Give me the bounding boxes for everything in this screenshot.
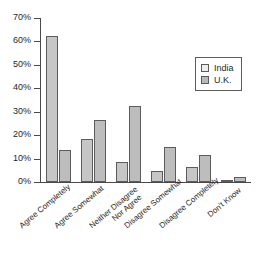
grouped-bar-chart: 0%10%20%30%40%50%60%70% Agree Completely… <box>0 0 264 257</box>
bar-uk-5 <box>234 177 246 182</box>
y-axis-tick-label: 50% <box>13 59 31 70</box>
y-axis-tick-label: 10% <box>13 153 31 164</box>
bar-india-1 <box>81 139 93 182</box>
legend-item-label: India <box>214 63 234 73</box>
chart-legend: IndiaU.K. <box>195 57 242 91</box>
bar-india-5 <box>221 180 233 182</box>
legend-swatch-uk <box>201 76 209 84</box>
bar-uk-1 <box>94 120 106 182</box>
y-axis-tick-label: 70% <box>13 12 31 23</box>
bar-uk-4 <box>199 155 211 182</box>
y-axis-tick-label: 30% <box>13 106 31 117</box>
y-axis-tick-label: 40% <box>13 82 31 93</box>
plot-area <box>40 18 250 182</box>
bar-uk-3 <box>164 147 176 182</box>
bar-india-2 <box>116 162 128 182</box>
y-axis-tick-label: 0% <box>18 176 31 187</box>
y-axis-tick-label: 60% <box>13 35 31 46</box>
legend-item-label: U.K. <box>214 75 232 85</box>
y-axis-tick-label: 20% <box>13 129 31 140</box>
bar-india-3 <box>151 171 163 182</box>
legend-item-india: India <box>201 62 234 74</box>
bar-india-0 <box>46 36 58 182</box>
bar-uk-2 <box>129 106 141 182</box>
legend-swatch-india <box>201 64 209 72</box>
bar-india-4 <box>186 167 198 182</box>
y-axis-tick-mark <box>34 182 40 183</box>
legend-item-uk: U.K. <box>201 74 234 86</box>
bar-uk-0 <box>59 150 71 182</box>
